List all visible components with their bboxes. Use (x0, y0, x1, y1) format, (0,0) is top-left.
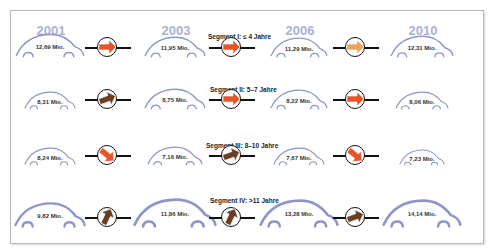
car-outline: 8,31 Mio. (24, 91, 76, 110)
trend-arrow-decrease (85, 38, 131, 58)
arrow-icon (221, 145, 241, 165)
arrow-icon (345, 207, 365, 227)
car-outline: 14,14 Mio. (382, 199, 462, 228)
car-outline: 11,29 Mio. (270, 37, 328, 58)
car-outline: 7,16 Mio. (147, 146, 203, 166)
vehicle-count: 7,23 Mio. (399, 156, 445, 162)
vehicle-count: 7,67 Mio. (273, 155, 325, 161)
arrow-icon (221, 89, 241, 109)
car-outline: 11,86 Mio. (133, 198, 217, 228)
car-outline: 8,24 Mio. (24, 147, 76, 166)
vehicle-count: 9,82 Mio. (14, 213, 86, 219)
arrow-icon (221, 207, 241, 227)
car-outline: 8,06 Mio. (395, 91, 449, 110)
car-outline: 8,22 Mio. (270, 89, 328, 110)
car-outline: 7,67 Mio. (273, 147, 325, 166)
vehicle-count: 8,22 Mio. (270, 98, 328, 104)
vehicle-count: 11,95 Mio. (144, 45, 206, 51)
vehicle-count: 8,24 Mio. (24, 155, 76, 161)
vehicle-count: 14,14 Mio. (382, 211, 462, 217)
car-outline: 12,31 Mio. (390, 35, 454, 58)
trend-arrow-increase (85, 208, 131, 228)
arrow-icon (345, 37, 365, 57)
car-outline: 11,95 Mio. (144, 36, 206, 58)
car-outline: 9,82 Mio. (14, 202, 86, 228)
car-outline: 7,23 Mio. (399, 149, 445, 166)
vehicle-count: 8,31 Mio. (24, 99, 76, 105)
trend-arrow-decrease (333, 90, 379, 110)
trend-arrow-decrease (209, 90, 255, 110)
car-outline: 13,28 Mio. (259, 199, 339, 228)
car-outline: 12,69 Mio. (15, 33, 85, 58)
trend-arrow-increase (209, 208, 255, 228)
vehicle-count: 11,86 Mio. (133, 211, 217, 217)
trend-arrow-decrease (85, 146, 131, 166)
trend-arrow-increase (333, 208, 379, 228)
vehicle-count: 7,16 Mio. (147, 154, 203, 160)
year-label-2006: 2006 (270, 23, 330, 38)
trend-arrow-decrease (209, 38, 255, 58)
arrow-icon (345, 145, 365, 165)
arrow-icon (97, 207, 117, 227)
trend-arrow-increase (85, 90, 131, 110)
trend-arrow-slight-decrease (333, 38, 379, 58)
vehicle-count: 13,28 Mio. (259, 211, 339, 217)
arrow-icon (221, 37, 241, 57)
vehicle-count: 11,29 Mio. (270, 46, 328, 52)
trend-arrow-increase (209, 146, 255, 166)
vehicle-count: 8,06 Mio. (395, 99, 449, 105)
arrow-icon (97, 37, 117, 57)
trend-arrow-decrease (333, 146, 379, 166)
vehicle-count: 12,31 Mio. (390, 45, 454, 51)
arrow-icon (97, 89, 117, 109)
vehicle-count: 8,75 Mio. (144, 97, 206, 103)
arrow-icon (97, 145, 117, 165)
vehicle-count: 12,69 Mio. (15, 44, 85, 50)
car-outline: 8,75 Mio. (144, 88, 206, 110)
arrow-icon (345, 89, 365, 109)
